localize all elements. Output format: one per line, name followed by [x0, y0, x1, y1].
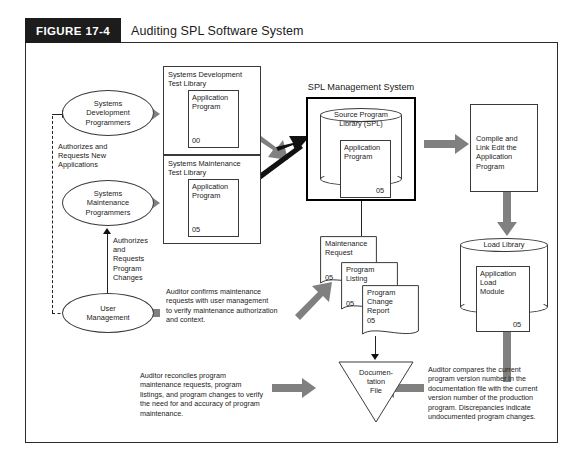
dev-application-program-version: 00 [192, 136, 200, 145]
entity-label: Systems Maintenance Programmers [86, 189, 131, 217]
label-authorizes-new-applications: Authorizes and Requests New Applications [58, 142, 144, 170]
figure-title: Auditing SPL Software System [131, 18, 304, 43]
figure-number-tag: FIGURE 17-4 [25, 18, 121, 43]
entity-label: User Management [86, 304, 129, 322]
documents-to-documentation-file-line [375, 336, 376, 356]
documentation-file-label: Documen- tation File [348, 368, 404, 396]
program-listing-version: 05 [346, 299, 354, 308]
note-auditor-compares-versions: Auditor compares the current program ver… [428, 365, 554, 421]
source-program-library-label: Source Program Library (SPL) [320, 110, 402, 128]
entity-label: Systems Development Programmers [86, 99, 131, 127]
entity-systems-development-programmers: Systems Development Programmers [62, 90, 154, 136]
note-auditor-confirms-maintenance: Auditor confirms maintenance requests wi… [166, 287, 298, 325]
load-library-label: Load Library [460, 240, 548, 249]
program-listing-label: Program Listing [346, 265, 400, 283]
label-systems-maintenance-test-library: Systems Maintenance Test Library [168, 159, 262, 177]
label-systems-development-test-library: Systems Development Test Library [168, 70, 262, 88]
entity-user-management: User Management [62, 293, 154, 333]
spl-to-maintenance-request-line [361, 201, 362, 236]
entity-systems-maintenance-programmers: Systems Maintenance Programmers [62, 180, 154, 226]
program-change-report-version: 05 [367, 316, 375, 325]
usermgmt-to-maintprog-line [107, 234, 108, 293]
note-auditor-reconciles-program: Auditor reconciles program maintenance r… [140, 371, 274, 418]
usermgmt-to-maintprog-arrowhead [103, 228, 111, 234]
application-load-module-version: 05 [513, 320, 521, 329]
maint-application-program-label: Application Program [192, 182, 238, 200]
maint-application-program-version: 05 [192, 225, 200, 234]
maintenance-request-version: 05 [325, 273, 333, 282]
spl-application-program-version: 05 [376, 186, 384, 195]
compile-and-link-edit-label: Compile and Link Edit the Application Pr… [476, 134, 538, 171]
maintenance-request-label: Maintenance Request [325, 239, 379, 257]
label-spl-management-system: SPL Management System [293, 83, 429, 92]
figure-canvas: FIGURE 17-4 Auditing SPL Software System [0, 0, 583, 464]
application-load-module-label: Application Load Module [480, 269, 530, 297]
dev-application-program-label: Application Program [192, 93, 238, 111]
documents-to-documentation-file-arrowhead [371, 354, 379, 360]
program-change-report-label: Program Change Report [367, 288, 421, 316]
spl-application-program-label: Application Program [344, 143, 390, 161]
label-authorizes-program-changes: Authorizes and Requests Program Changes [113, 236, 165, 282]
dashed-authorization-line [52, 116, 53, 313]
